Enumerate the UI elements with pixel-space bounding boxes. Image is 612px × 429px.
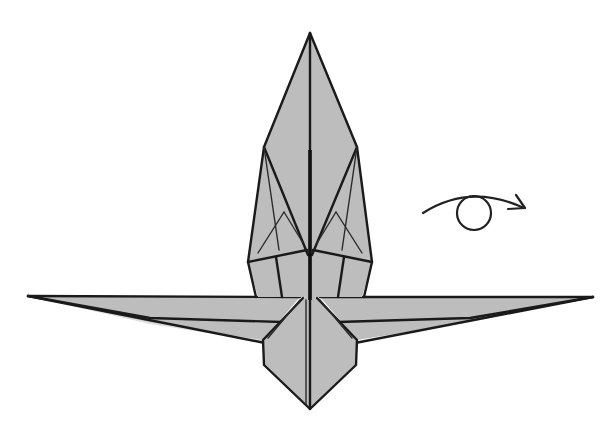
origami-diagram: folded bird base model with extended win… [0, 0, 612, 429]
turn-over-icon [423, 195, 525, 230]
right-wing [320, 297, 593, 343]
left-wing [28, 296, 300, 343]
origami-model [0, 0, 612, 429]
